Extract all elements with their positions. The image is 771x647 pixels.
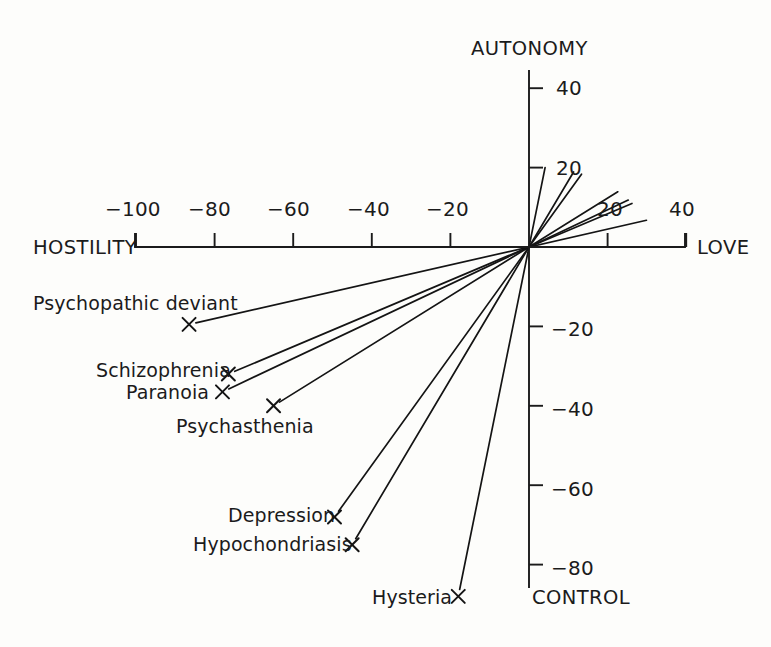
vector-line-paranoia <box>229 200 628 389</box>
axis-ticks <box>136 88 686 564</box>
x-tick-label--60: −60 <box>267 199 310 219</box>
point-label-hysteria: Hysteria <box>372 588 452 607</box>
y-axis-top-label: AUTONOMY <box>471 39 588 59</box>
y-tick-label--60: −60 <box>551 479 594 499</box>
x-tick-label--80: −80 <box>188 199 231 219</box>
chart-plot-area <box>0 0 771 647</box>
point-marker-paranoia <box>216 385 229 398</box>
x-tick-label--40: −40 <box>347 199 390 219</box>
vector-line-hysteria <box>460 168 545 590</box>
x-axis-left-label: HOSTILITY <box>33 238 137 258</box>
vector-line-hypochondriasis <box>356 172 574 539</box>
axes-group <box>135 71 685 587</box>
y-axis-bottom-label: CONTROL <box>532 588 630 608</box>
vector-line-psychasthenia <box>279 192 617 402</box>
vector-lines <box>196 168 647 590</box>
x-tick-label-40: 40 <box>669 199 695 219</box>
x-tick-label--100: −100 <box>105 199 161 219</box>
point-marker-psychopathic-deviant <box>183 318 196 331</box>
vector-line-schizophrenia <box>235 203 632 371</box>
y-tick-label--40: −40 <box>551 399 594 419</box>
x-tick-label--20: −20 <box>426 199 469 219</box>
x-axis-right-label: LOVE <box>697 238 749 258</box>
vector-line-psychopathic-deviant <box>196 220 647 323</box>
point-marker-psychasthenia <box>267 399 280 412</box>
y-tick-label--20: −20 <box>551 319 594 339</box>
point-label-psychasthenia: Psychasthenia <box>176 417 314 436</box>
y-tick-label-20: 20 <box>556 158 582 178</box>
point-label-depression: Depression <box>228 506 335 525</box>
point-label-hypochondriasis: Hypochondriasis <box>193 535 352 554</box>
x-tick-label-20: 20 <box>597 199 623 219</box>
point-label-paranoia: Paranoia <box>126 383 209 402</box>
point-marker-hysteria <box>452 590 465 603</box>
point-label-psychopathic-deviant: Psychopathic deviant <box>33 294 238 313</box>
y-tick-label--80: −80 <box>551 558 594 578</box>
y-tick-label-40: 40 <box>556 78 582 98</box>
chart-figure: HOSTILITY LOVE AUTONOMY CONTROL −100 −80… <box>0 0 771 647</box>
point-label-schizophrenia: Schizophrenia <box>96 361 231 380</box>
